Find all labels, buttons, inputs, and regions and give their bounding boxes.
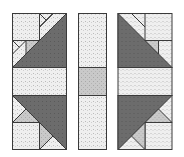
- right-panel: [118, 14, 172, 150]
- center-strip: [79, 14, 107, 150]
- quilt-pattern-diagram: [0, 0, 184, 157]
- left-panel: [13, 14, 67, 150]
